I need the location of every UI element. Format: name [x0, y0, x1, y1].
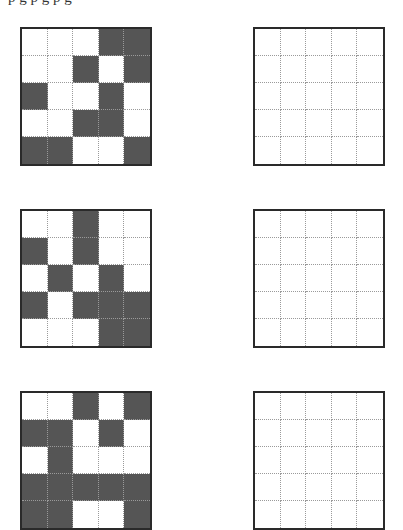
- empty-cell[interactable]: [306, 393, 332, 420]
- empty-cell[interactable]: [255, 137, 281, 164]
- empty-cell[interactable]: [357, 292, 383, 319]
- empty-cell[interactable]: [255, 265, 281, 292]
- empty-cell[interactable]: [281, 501, 307, 528]
- empty-cell[interactable]: [306, 137, 332, 164]
- filled-cell: [73, 211, 99, 238]
- filled-cell: [99, 292, 125, 319]
- empty-cell[interactable]: [332, 83, 358, 110]
- empty-cell[interactable]: [332, 501, 358, 528]
- empty-cell[interactable]: [332, 265, 358, 292]
- empty-cell: [48, 211, 74, 238]
- empty-cell[interactable]: [357, 447, 383, 474]
- empty-cell: [73, 319, 99, 346]
- filled-cell: [99, 29, 125, 56]
- empty-cell[interactable]: [281, 56, 307, 83]
- empty-cell[interactable]: [357, 83, 383, 110]
- empty-cell[interactable]: [332, 319, 358, 346]
- empty-cell[interactable]: [281, 393, 307, 420]
- empty-cell[interactable]: [357, 393, 383, 420]
- empty-cell[interactable]: [332, 137, 358, 164]
- empty-cell[interactable]: [306, 238, 332, 265]
- empty-cell[interactable]: [281, 83, 307, 110]
- empty-cell[interactable]: [281, 319, 307, 346]
- empty-cell[interactable]: [357, 265, 383, 292]
- empty-cell[interactable]: [357, 29, 383, 56]
- empty-cell[interactable]: [281, 420, 307, 447]
- empty-cell[interactable]: [306, 501, 332, 528]
- empty-cell[interactable]: [255, 393, 281, 420]
- empty-cell[interactable]: [255, 29, 281, 56]
- filled-cell: [99, 265, 125, 292]
- empty-cell[interactable]: [306, 265, 332, 292]
- empty-cell[interactable]: [332, 447, 358, 474]
- empty-cell[interactable]: [255, 447, 281, 474]
- empty-cell: [124, 420, 150, 447]
- empty-cell[interactable]: [332, 29, 358, 56]
- empty-cell[interactable]: [357, 238, 383, 265]
- empty-cell: [22, 265, 48, 292]
- empty-cell[interactable]: [255, 83, 281, 110]
- empty-cell[interactable]: [357, 319, 383, 346]
- filled-cell: [73, 238, 99, 265]
- empty-cell[interactable]: [255, 501, 281, 528]
- empty-cell[interactable]: [281, 110, 307, 137]
- empty-cell[interactable]: [332, 56, 358, 83]
- empty-cell[interactable]: [306, 29, 332, 56]
- empty-cell[interactable]: [255, 238, 281, 265]
- empty-cell[interactable]: [306, 474, 332, 501]
- empty-cell[interactable]: [255, 319, 281, 346]
- empty-cell[interactable]: [255, 211, 281, 238]
- empty-cell[interactable]: [357, 474, 383, 501]
- empty-cell[interactable]: [306, 447, 332, 474]
- empty-cell[interactable]: [357, 137, 383, 164]
- filled-cell: [48, 474, 74, 501]
- empty-cell[interactable]: [281, 137, 307, 164]
- empty-cell[interactable]: [332, 393, 358, 420]
- empty-cell[interactable]: [255, 292, 281, 319]
- answer-grid-2[interactable]: [253, 209, 385, 348]
- empty-cell[interactable]: [281, 29, 307, 56]
- empty-cell[interactable]: [357, 211, 383, 238]
- empty-cell: [22, 319, 48, 346]
- empty-cell[interactable]: [281, 211, 307, 238]
- empty-cell[interactable]: [332, 420, 358, 447]
- empty-cell[interactable]: [281, 238, 307, 265]
- answer-grid-3[interactable]: [253, 391, 385, 530]
- empty-cell[interactable]: [306, 110, 332, 137]
- empty-cell: [22, 447, 48, 474]
- filled-cell: [48, 137, 74, 164]
- empty-cell: [99, 137, 125, 164]
- empty-cell[interactable]: [357, 56, 383, 83]
- empty-cell[interactable]: [332, 292, 358, 319]
- empty-cell[interactable]: [332, 211, 358, 238]
- empty-cell[interactable]: [306, 56, 332, 83]
- empty-cell[interactable]: [255, 420, 281, 447]
- empty-cell[interactable]: [357, 420, 383, 447]
- empty-cell[interactable]: [357, 110, 383, 137]
- empty-cell[interactable]: [332, 110, 358, 137]
- empty-cell[interactable]: [306, 319, 332, 346]
- empty-cell[interactable]: [255, 474, 281, 501]
- empty-cell[interactable]: [281, 474, 307, 501]
- empty-cell[interactable]: [306, 292, 332, 319]
- filled-cell: [124, 393, 150, 420]
- empty-cell[interactable]: [281, 447, 307, 474]
- empty-cell[interactable]: [357, 501, 383, 528]
- empty-cell[interactable]: [332, 474, 358, 501]
- empty-cell[interactable]: [306, 83, 332, 110]
- empty-cell: [99, 211, 125, 238]
- empty-cell[interactable]: [281, 292, 307, 319]
- filled-cell: [73, 110, 99, 137]
- empty-cell: [124, 110, 150, 137]
- empty-cell[interactable]: [306, 420, 332, 447]
- empty-cell[interactable]: [255, 110, 281, 137]
- empty-cell[interactable]: [255, 56, 281, 83]
- empty-cell: [73, 83, 99, 110]
- empty-cell[interactable]: [306, 211, 332, 238]
- empty-cell: [99, 56, 125, 83]
- empty-cell[interactable]: [281, 265, 307, 292]
- empty-cell: [99, 238, 125, 265]
- empty-cell[interactable]: [332, 238, 358, 265]
- answer-grid-1[interactable]: [253, 27, 385, 166]
- empty-cell: [73, 29, 99, 56]
